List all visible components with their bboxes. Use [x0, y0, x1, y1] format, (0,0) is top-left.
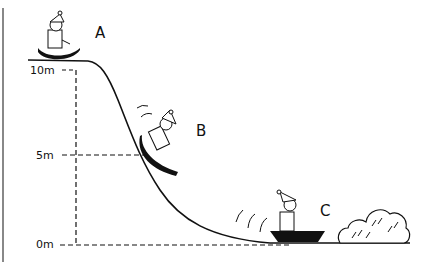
- sledder-b: [137, 105, 178, 176]
- bush: [338, 210, 409, 243]
- position-label-a: A: [95, 24, 105, 42]
- hill-slope: [28, 60, 410, 243]
- position-label-c: C: [320, 202, 330, 220]
- height-label-10m: 10m: [30, 64, 55, 77]
- height-label-0m: 0m: [36, 238, 54, 251]
- sledder-c: [236, 190, 325, 242]
- hill-diagram: [0, 0, 435, 264]
- sledder-a: [38, 11, 80, 59]
- position-label-b: B: [196, 122, 206, 140]
- height-label-5m: 5m: [36, 149, 54, 162]
